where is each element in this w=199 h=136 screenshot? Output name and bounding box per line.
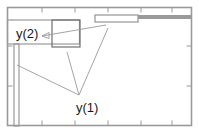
- thick-horizontal-bar: [138, 15, 192, 19]
- label-y2: y(2): [16, 26, 38, 41]
- diagram-canvas: y(2) y(1): [0, 0, 199, 136]
- leader-y1-from-upper-mid: [67, 52, 79, 95]
- diagram-svg: y(2) y(1): [0, 0, 199, 136]
- leader-y1-from-left-member: [17, 65, 79, 95]
- thin-horizontal-bar: [95, 15, 138, 22]
- left-vertical-member: [14, 44, 19, 126]
- label-y1: y(1): [76, 100, 98, 115]
- leader-y1-from-upper-right: [79, 28, 108, 95]
